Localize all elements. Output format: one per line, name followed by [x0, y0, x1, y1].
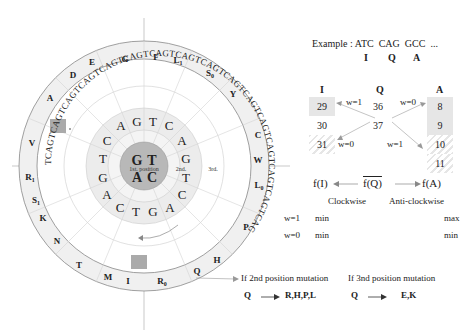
- svg-text:C: C: [116, 200, 125, 215]
- row2-left: min: [315, 230, 329, 240]
- svg-text:G: G: [121, 54, 128, 64]
- svg-text:G: G: [132, 114, 141, 129]
- codon-wheel: G T A C 1st. position 2nd. 3rd. A G T C …: [0, 0, 300, 334]
- svg-text:F: F: [153, 52, 159, 62]
- svg-text:A: A: [177, 133, 187, 148]
- svg-text:A: A: [116, 118, 126, 133]
- svg-text:Q: Q: [193, 266, 200, 276]
- second-mutation-title: If 2nd position mutation: [241, 273, 328, 283]
- function-arrows: [330, 178, 425, 190]
- f-i: f(I): [313, 177, 328, 189]
- svg-text:Y: Y: [230, 89, 237, 99]
- svg-text:1st. position: 1st. position: [129, 166, 158, 172]
- svg-text:K: K: [39, 213, 46, 223]
- svg-text:A: A: [102, 187, 112, 202]
- svg-text:T: T: [76, 260, 82, 270]
- center-a: A: [132, 170, 143, 185]
- svg-text:V: V: [29, 138, 36, 148]
- svg-text:T: T: [149, 114, 157, 129]
- clockwise-label: Clockwise: [328, 196, 366, 206]
- svg-text:C: C: [165, 118, 174, 133]
- row1-w: w=1: [284, 213, 300, 223]
- example-label: Example : ATC CAG GCC ...: [312, 38, 438, 49]
- svg-text:T: T: [182, 170, 190, 185]
- table-arrows: [300, 90, 467, 170]
- svg-text:I: I: [126, 276, 130, 286]
- svg-text:E: E: [89, 57, 95, 67]
- row1-right: max: [444, 213, 460, 223]
- svg-text:C: C: [178, 187, 187, 202]
- svg-text:P: P: [243, 222, 249, 232]
- example-amino-q: Q: [388, 52, 396, 63]
- svg-text:N: N: [54, 236, 61, 246]
- anticlockwise-label: Anti-clockwise: [389, 196, 444, 206]
- svg-text:W: W: [254, 155, 263, 165]
- svg-text:H: H: [213, 255, 220, 265]
- svg-text:G: G: [181, 151, 190, 166]
- row2-right: min: [444, 230, 458, 240]
- svg-text:A: A: [47, 93, 54, 103]
- row2-w: w=0: [284, 230, 300, 240]
- svg-text:A: A: [165, 200, 175, 215]
- center-c: C: [147, 170, 157, 185]
- example-amino-i: I: [364, 52, 368, 63]
- third-mutation-title: If 3nd position mutation: [348, 273, 435, 283]
- svg-text:D: D: [70, 70, 77, 80]
- row1-left: min: [315, 213, 329, 223]
- svg-text:T: T: [99, 151, 107, 166]
- svg-text:T: T: [132, 204, 140, 219]
- svg-text:3rd.: 3rd.: [208, 166, 218, 172]
- svg-text:C: C: [255, 130, 262, 140]
- svg-text:G: G: [98, 170, 107, 185]
- svg-text:G: G: [148, 204, 157, 219]
- svg-text:M: M: [104, 272, 113, 282]
- mutation-arrows: [258, 292, 458, 302]
- example-amino-a: A: [413, 52, 420, 63]
- svg-text:C: C: [103, 133, 112, 148]
- second-mutation-from: Q: [244, 290, 251, 300]
